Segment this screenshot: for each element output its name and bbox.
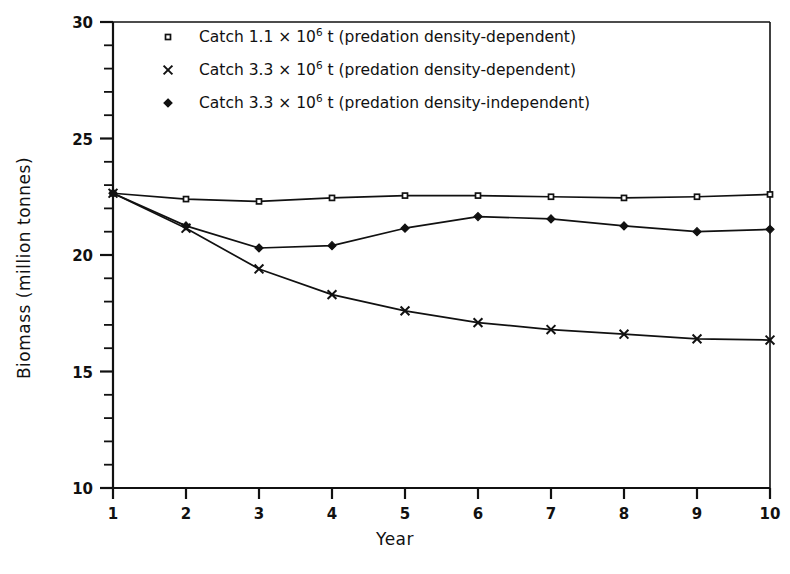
x-tick-label: 10 — [760, 505, 781, 523]
x-tick-label: 2 — [181, 505, 191, 523]
marker-open-square-icon — [403, 193, 408, 198]
legend-entry-label: Catch 3.3 × 106 t (predation density-dep… — [199, 59, 576, 79]
legend-entry: Catch 1.1 × 106 t (predation density-dep… — [166, 26, 576, 46]
x-tick-label: 6 — [473, 505, 483, 523]
biomass-year-line-chart: 1015202530 12345678910 Year Biomass (mil… — [0, 0, 790, 574]
marker-open-square-icon — [476, 193, 481, 198]
y-tick-label: 10 — [72, 480, 93, 498]
x-axis-title: Year — [375, 529, 414, 549]
legend-entry-label: Catch 3.3 × 106 t (predation density-ind… — [199, 92, 590, 112]
x-tick-label: 9 — [692, 505, 702, 523]
x-tick-label: 8 — [619, 505, 629, 523]
x-tick-label: 4 — [327, 505, 337, 523]
y-tick-label: 20 — [72, 247, 93, 265]
x-tick-label: 3 — [254, 505, 264, 523]
marker-open-square-icon — [257, 199, 262, 204]
chart-legend: Catch 1.1 × 106 t (predation density-dep… — [164, 26, 591, 112]
marker-open-square-icon — [622, 195, 627, 200]
marker-open-square-icon — [695, 194, 700, 199]
marker-open-square-icon — [184, 197, 189, 202]
y-tick-label: 15 — [72, 364, 93, 382]
marker-open-square-icon — [768, 192, 773, 197]
y-axis-title: Biomass (million tonnes) — [14, 157, 34, 379]
marker-open-square-icon — [166, 35, 171, 40]
chart-figure: 1015202530 12345678910 Year Biomass (mil… — [0, 0, 790, 574]
x-tick-label: 5 — [400, 505, 410, 523]
x-tick-label: 7 — [546, 505, 556, 523]
x-tick-label: 1 — [108, 505, 118, 523]
y-tick-label: 25 — [72, 131, 93, 149]
marker-open-square-icon — [330, 195, 335, 200]
marker-open-square-icon — [549, 194, 554, 199]
y-tick-label: 30 — [72, 14, 93, 32]
legend-entry-label: Catch 1.1 × 106 t (predation density-dep… — [199, 26, 576, 46]
legend-entry: Catch 3.3 × 106 t (predation density-ind… — [164, 92, 590, 112]
legend-entry: Catch 3.3 × 106 t (predation density-dep… — [164, 59, 576, 79]
